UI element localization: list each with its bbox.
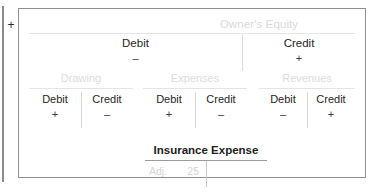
t-account-insurance-expense-body: Adj. 25 — [145, 161, 267, 187]
account-group-revenues: Revenues Debit – Credit + — [259, 71, 355, 122]
drawing-debit-column: Debit + — [29, 92, 81, 122]
account-group-expenses-divider — [195, 92, 196, 128]
expenses-debit-sign: + — [143, 107, 195, 122]
t-account-credit-side — [207, 164, 267, 184]
adjacent-account-box-edge — [2, 6, 4, 182]
t-account-debit-entry-label: Adj. — [149, 164, 167, 178]
diagram-canvas: + Owner's Equity Debit – Credit + Drawin… — [0, 0, 371, 193]
t-account-debit-side: Adj. 25 — [145, 164, 205, 184]
owners-equity-debit-sign: – — [29, 51, 242, 65]
expenses-credit-label: Credit — [195, 92, 247, 107]
t-account-insurance-expense-title: Insurance Expense — [145, 143, 267, 158]
expenses-debit-label: Debit — [143, 92, 195, 107]
revenues-debit-column: Debit – — [259, 92, 307, 122]
revenues-credit-label: Credit — [307, 92, 355, 107]
owners-equity-credit-label: Credit — [243, 36, 355, 51]
drawing-credit-label: Credit — [81, 92, 133, 107]
owners-equity-debit-label: Debit — [29, 36, 242, 51]
account-group-revenues-title: Revenues — [259, 71, 355, 86]
drawing-credit-sign: – — [81, 107, 133, 122]
owners-equity-underline — [29, 33, 355, 34]
revenues-debit-sign: – — [259, 107, 307, 122]
account-group-drawing-columns: Debit + Credit – — [29, 92, 133, 122]
plus-connector-icon: + — [5, 18, 17, 32]
account-group-drawing-divider — [81, 92, 82, 128]
account-group-drawing: Drawing Debit + Credit – — [29, 71, 133, 122]
owners-equity-credit-sign: + — [243, 51, 355, 65]
account-group-drawing-title: Drawing — [29, 71, 133, 86]
account-group-drawing-underline — [29, 88, 133, 89]
t-account-debit-entry-amount: 25 — [187, 164, 199, 178]
drawing-credit-column: Credit – — [81, 92, 133, 122]
owners-equity-debit-column: Debit – — [29, 36, 242, 65]
account-group-expenses-underline — [143, 88, 247, 89]
account-group-expenses-columns: Debit + Credit – — [143, 92, 247, 122]
owners-equity-credit-column: Credit + — [243, 36, 355, 65]
account-group-revenues-divider — [307, 92, 308, 128]
owners-equity-title: Owner's Equity — [154, 18, 364, 30]
t-account-insurance-expense: Insurance Expense Adj. 25 — [145, 143, 267, 187]
account-group-expenses: Expenses Debit + Credit – — [143, 71, 247, 122]
revenues-credit-column: Credit + — [307, 92, 355, 122]
revenues-debit-label: Debit — [259, 92, 307, 107]
expenses-debit-column: Debit + — [143, 92, 195, 122]
account-group-revenues-underline — [259, 88, 355, 89]
owners-equity-panel: Owner's Equity Debit – Credit + Drawing … — [18, 8, 366, 178]
drawing-debit-label: Debit — [29, 92, 81, 107]
drawing-debit-sign: + — [29, 107, 81, 122]
account-group-expenses-title: Expenses — [143, 71, 247, 86]
revenues-credit-sign: + — [307, 107, 355, 122]
expenses-credit-column: Credit – — [195, 92, 247, 122]
account-group-revenues-columns: Debit – Credit + — [259, 92, 355, 122]
expenses-credit-sign: – — [195, 107, 247, 122]
